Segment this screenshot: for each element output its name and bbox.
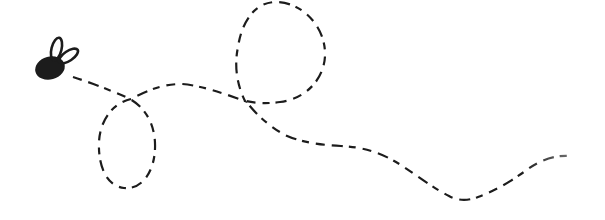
flight-path — [73, 2, 570, 200]
fly — [33, 37, 81, 83]
fly-right-wing — [57, 46, 81, 66]
fly-left-wing — [49, 37, 64, 62]
fly-doodle-svg — [0, 0, 605, 220]
fly-body — [33, 53, 68, 83]
doodle-canvas — [0, 0, 605, 220]
